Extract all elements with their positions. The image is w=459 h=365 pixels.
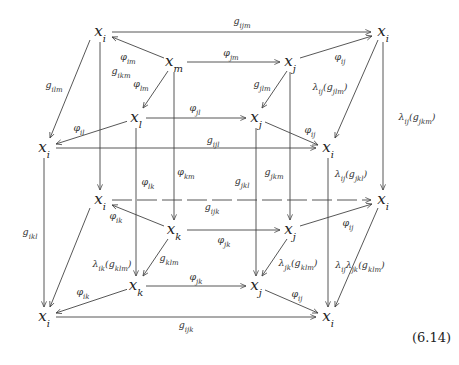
arrow-label: φim: [120, 51, 136, 66]
arrow-label: gjkm: [264, 166, 284, 181]
arrow-label: φij: [342, 217, 354, 232]
arrow-label: λij(gjkl): [334, 168, 368, 183]
arrow-label: φjk: [189, 271, 202, 286]
arrow---ij: [300, 204, 372, 226]
arrow---ij--jk-g-klm-: [335, 208, 378, 307]
arrow-label: λij(gjkm): [397, 111, 435, 126]
arrow-label: gjlm: [253, 78, 271, 93]
arrow-label: gikl: [23, 226, 38, 241]
arrow-label: gijk: [205, 201, 220, 216]
commutative-cube-diagram: gijmφimφjmφijφlmgjlmgilmλij(gjlm)λij(gjk…: [0, 0, 459, 365]
arrow-label: gilm: [45, 79, 63, 94]
arrow-label: φjk: [217, 234, 230, 249]
arrow-label: gijk: [179, 319, 194, 334]
arrow-label: φkm: [177, 166, 195, 181]
arrow-label: φjm: [223, 47, 239, 62]
arrow-label: φij: [334, 51, 346, 66]
diagram-arrows: [44, 32, 383, 317]
arrow-label: λij(gjlm): [311, 81, 347, 96]
arrow-label: φil: [73, 122, 84, 137]
arrow---ik: [56, 289, 128, 313]
arrow-label: φij: [304, 124, 316, 139]
arrow-label: φlk: [141, 176, 154, 191]
equation-number: (6.14): [412, 330, 451, 345]
arrow-label: λjk(gklm): [277, 257, 317, 272]
arrow-label: gikm: [111, 65, 131, 80]
arrow-label: φlm: [133, 78, 149, 93]
arrow-label: gjkl: [235, 175, 250, 190]
arrow-label: φik: [76, 286, 89, 301]
arrow-label: gijl: [207, 134, 220, 149]
arrow---il: [56, 121, 128, 144]
arrow-label: gijm: [233, 15, 251, 30]
arrow-label: φij: [291, 288, 303, 303]
arrow-label: λijλjk(gklm): [334, 259, 385, 274]
arrow-label: φik: [109, 210, 122, 225]
arrow-label: φjl: [189, 102, 200, 117]
arrow-label: gklm: [159, 252, 179, 267]
arrow-label: λik(gklm): [91, 258, 131, 273]
